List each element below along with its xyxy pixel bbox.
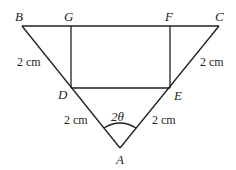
label-G: G	[64, 9, 74, 24]
measure-CE: 2 cm	[200, 55, 224, 69]
label-B: B	[15, 9, 23, 24]
angle-label: 2θ	[111, 109, 125, 124]
label-C: C	[215, 9, 224, 24]
geometry-diagram: B G F C D E A 2 cm 2 cm 2 cm 2 cm 2θ	[0, 0, 236, 170]
label-F: F	[164, 9, 174, 24]
measure-AE: 2 cm	[152, 113, 176, 127]
label-D: D	[57, 87, 68, 102]
measure-AD: 2 cm	[64, 113, 88, 127]
label-A: A	[115, 152, 124, 167]
measure-BD: 2 cm	[17, 55, 41, 69]
label-E: E	[173, 88, 182, 103]
